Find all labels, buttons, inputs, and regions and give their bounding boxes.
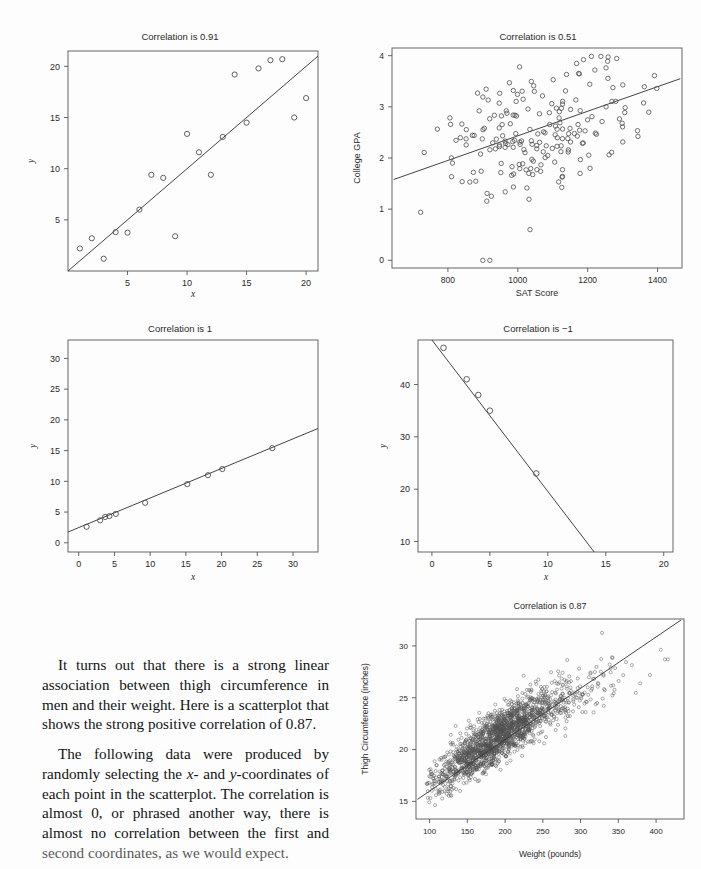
data-point bbox=[528, 127, 532, 131]
x-axis-label: x bbox=[190, 572, 196, 582]
data-point bbox=[576, 677, 579, 680]
data-point bbox=[511, 185, 515, 189]
data-point bbox=[652, 73, 656, 77]
data-point bbox=[537, 140, 541, 144]
data-point bbox=[529, 79, 533, 83]
y-tick-label: 20 bbox=[50, 62, 60, 72]
data-point bbox=[568, 675, 571, 678]
data-point bbox=[457, 779, 460, 782]
y-tick-label: 1 bbox=[379, 204, 384, 214]
data-point bbox=[566, 131, 570, 135]
y-tick-label: 30 bbox=[399, 642, 408, 651]
data-point bbox=[435, 127, 439, 131]
data-point bbox=[478, 711, 481, 714]
data-point bbox=[578, 157, 582, 161]
y-axis-label: y bbox=[26, 158, 36, 164]
data-point bbox=[565, 687, 568, 690]
y-axis-label: Thigh Circumference (inches) bbox=[360, 663, 370, 775]
x-tick-label: 10 bbox=[182, 278, 192, 288]
data-point bbox=[595, 665, 598, 668]
data-point bbox=[473, 777, 476, 780]
x-tick-label: 400 bbox=[649, 827, 663, 836]
chart-title: Correlation is 1 bbox=[148, 323, 212, 334]
data-point bbox=[485, 199, 489, 203]
data-point bbox=[589, 698, 592, 701]
x-tick-label: 20 bbox=[301, 278, 311, 288]
data-point bbox=[575, 134, 579, 138]
data-point bbox=[458, 136, 462, 140]
chart-title: Correlation is 0.91 bbox=[141, 31, 218, 42]
data-point bbox=[551, 78, 555, 82]
data-point bbox=[552, 719, 555, 722]
data-point bbox=[609, 671, 612, 674]
data-point bbox=[489, 194, 493, 198]
data-point bbox=[477, 109, 481, 113]
data-point bbox=[550, 671, 553, 674]
data-point bbox=[528, 227, 532, 231]
data-point bbox=[292, 115, 297, 120]
data-point bbox=[488, 258, 492, 262]
data-point bbox=[593, 131, 597, 135]
paragraph-1-text: It turns out that there is a strong line… bbox=[42, 656, 329, 732]
x-tick-label: 30 bbox=[288, 559, 298, 569]
data-point bbox=[586, 686, 589, 689]
data-point bbox=[478, 152, 482, 156]
data-point bbox=[418, 210, 422, 214]
y-tick-label: 3 bbox=[379, 102, 384, 112]
data-point bbox=[232, 72, 237, 77]
x-tick-label: 800 bbox=[441, 275, 455, 285]
data-point bbox=[605, 59, 609, 63]
data-point bbox=[521, 97, 525, 101]
data-point bbox=[515, 92, 519, 96]
data-point bbox=[77, 246, 82, 251]
data-point bbox=[537, 112, 541, 116]
data-point bbox=[596, 685, 599, 688]
x-tick-label: 5 bbox=[112, 559, 117, 569]
data-point bbox=[564, 734, 567, 737]
data-point bbox=[505, 762, 508, 765]
data-point bbox=[499, 170, 503, 174]
x-tick-label: 100 bbox=[423, 827, 437, 836]
data-point bbox=[581, 57, 585, 61]
data-point bbox=[448, 122, 452, 126]
data-point bbox=[471, 170, 475, 174]
y-tick-label: 30 bbox=[400, 432, 410, 442]
y-tick-label: 4 bbox=[379, 51, 384, 61]
data-point bbox=[488, 148, 492, 152]
data-point bbox=[475, 392, 481, 398]
data-point bbox=[441, 790, 444, 793]
data-point bbox=[647, 110, 651, 114]
x-tick-label: 5 bbox=[125, 278, 130, 288]
data-point bbox=[574, 61, 578, 65]
data-point bbox=[547, 111, 551, 115]
data-point bbox=[507, 81, 511, 85]
data-point bbox=[494, 764, 497, 767]
data-point bbox=[464, 127, 468, 131]
x-tick-label: 20 bbox=[659, 559, 669, 569]
data-point bbox=[518, 166, 522, 170]
data-point bbox=[589, 54, 593, 58]
data-point bbox=[599, 670, 602, 673]
data-point bbox=[636, 134, 640, 138]
data-point bbox=[578, 685, 581, 688]
x-axis-label: x bbox=[190, 289, 196, 299]
data-point bbox=[560, 102, 564, 106]
y-tick-label: 20 bbox=[50, 415, 60, 425]
data-point bbox=[609, 684, 612, 687]
scatter-chart-corr-1: Correlation is 1 05101520253005101520253… bbox=[20, 318, 340, 583]
data-point bbox=[611, 85, 615, 89]
data-point bbox=[578, 171, 582, 175]
data-point bbox=[460, 736, 463, 739]
paragraph-2: The following data were produced by rand… bbox=[42, 744, 329, 863]
x-tick-label: 200 bbox=[498, 827, 512, 836]
regression-line bbox=[68, 428, 318, 532]
data-point bbox=[606, 76, 610, 80]
data-point bbox=[528, 732, 531, 735]
data-point bbox=[446, 751, 449, 754]
data-point bbox=[608, 663, 611, 666]
data-point bbox=[607, 153, 611, 157]
data-point bbox=[560, 167, 564, 171]
data-point bbox=[623, 110, 627, 114]
scatter-chart-corr-091: Correlation is 0.91 51015205101520 x y bbox=[20, 26, 340, 301]
data-point bbox=[634, 691, 637, 694]
